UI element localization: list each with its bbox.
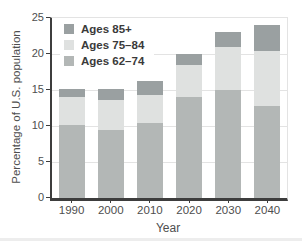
x-tick-mark-2000 <box>110 200 111 203</box>
bar-2000-seg-ages-85 <box>98 89 124 100</box>
y-tick-mark-0 <box>46 197 50 198</box>
x-tick-mark-2010 <box>149 200 150 203</box>
bar-2000 <box>98 89 124 198</box>
bar-2020-seg-ages-75-84 <box>176 65 202 97</box>
bar-2020 <box>176 54 202 198</box>
x-tick-mark-1990 <box>71 200 72 203</box>
bar-2030-seg-ages-75-84 <box>215 47 241 90</box>
x-tick-mark-2040 <box>267 200 268 203</box>
legend: Ages 85+Ages 75–84Ages 62–74 <box>60 19 154 72</box>
x-axis-title: Year <box>48 221 288 235</box>
legend-swatch-ages-85 <box>64 24 74 34</box>
x-tick-label-2020: 2020 <box>169 204 209 217</box>
bar-2030-seg-ages-85 <box>215 32 241 46</box>
bar-2010 <box>137 81 163 198</box>
bar-1990-seg-ages-75-84 <box>59 97 85 124</box>
bar-2020-seg-ages-62-74 <box>176 97 202 198</box>
bar-1990 <box>59 89 85 198</box>
bar-2000-seg-ages-62-74 <box>98 130 124 198</box>
y-tick-mark-20 <box>46 53 50 54</box>
bar-2010-seg-ages-85 <box>137 81 163 95</box>
x-tick-mark-2020 <box>189 200 190 203</box>
y-tick-mark-5 <box>46 161 50 162</box>
bar-2010-seg-ages-62-74 <box>137 123 163 198</box>
x-tick-label-2040: 2040 <box>247 204 287 217</box>
gridline-15 <box>52 90 287 91</box>
bar-2040 <box>254 25 280 198</box>
legend-swatch-ages-75-84 <box>64 40 74 50</box>
plot-area: Ages 85+Ages 75–84Ages 62–74 <box>50 17 288 201</box>
y-tick-mark-25 <box>46 17 50 18</box>
y-tick-mark-15 <box>46 89 50 90</box>
bar-2030 <box>215 32 241 198</box>
stacked-bar-chart: Ages 85+Ages 75–84Ages 62–74 0510152025 … <box>0 0 302 241</box>
bar-2030-seg-ages-62-74 <box>215 90 241 198</box>
legend-item-ages-85: Ages 85+ <box>64 22 144 36</box>
legend-label-ages-62-74: Ages 62–74 <box>81 55 144 67</box>
y-tick-mark-10 <box>46 125 50 126</box>
legend-label-ages-75-84: Ages 75–84 <box>81 39 144 51</box>
bar-2010-seg-ages-75-84 <box>137 95 163 123</box>
bar-1990-seg-ages-85 <box>59 89 85 98</box>
gridline-10 <box>52 126 287 127</box>
bar-1990-seg-ages-62-74 <box>59 125 85 198</box>
legend-label-ages-85: Ages 85+ <box>81 23 132 35</box>
gridline-5 <box>52 162 287 163</box>
x-tick-label-2010: 2010 <box>130 204 170 217</box>
bar-2040-seg-ages-85 <box>254 25 280 51</box>
x-tick-label-1990: 1990 <box>52 204 92 217</box>
x-tick-label-2030: 2030 <box>208 204 248 217</box>
y-tick-label-0: 0 <box>14 191 44 203</box>
bar-2020-seg-ages-85 <box>176 54 202 65</box>
bar-2000-seg-ages-75-84 <box>98 100 124 130</box>
x-tick-label-2000: 2000 <box>91 204 131 217</box>
legend-item-ages-75-84: Ages 75–84 <box>64 38 144 52</box>
y-axis-title: Percentage of U.S. population <box>10 22 22 192</box>
legend-swatch-ages-62-74 <box>64 56 74 66</box>
bar-2040-seg-ages-75-84 <box>254 51 280 106</box>
bar-2040-seg-ages-62-74 <box>254 106 280 198</box>
x-tick-mark-2030 <box>228 200 229 203</box>
legend-item-ages-62-74: Ages 62–74 <box>64 54 144 68</box>
